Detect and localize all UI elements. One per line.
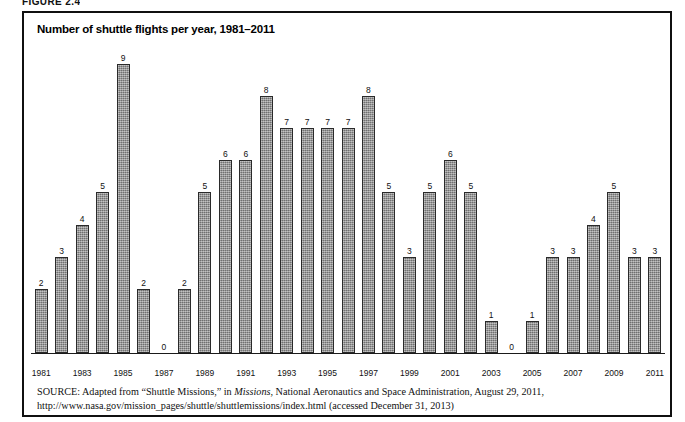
bar-slot[interactable]: 1 [481, 52, 501, 353]
x-tick-blank [624, 366, 644, 382]
bar[interactable] [117, 64, 130, 353]
x-tick-blank [338, 366, 358, 382]
bar-value-label: 7 [325, 117, 330, 127]
bar-value-label: 8 [366, 85, 371, 95]
bar-slot[interactable]: 1 [522, 52, 542, 353]
bar-slot[interactable]: 8 [358, 52, 378, 353]
x-tick-label: 2003 [481, 366, 501, 382]
bar-value-label: 2 [182, 278, 187, 288]
bar-slot[interactable]: 7 [297, 52, 317, 353]
bar[interactable] [382, 192, 395, 353]
bar[interactable] [198, 192, 211, 353]
bar-slot[interactable]: 5 [92, 52, 112, 353]
bar-slot[interactable]: 3 [624, 52, 644, 353]
x-tick-label: 1997 [358, 366, 378, 382]
bar-slot[interactable]: 6 [236, 52, 256, 353]
bar-slot[interactable]: 2 [31, 52, 51, 353]
bar[interactable] [403, 257, 416, 353]
bar-slot[interactable]: 3 [542, 52, 562, 353]
bar[interactable] [321, 128, 334, 353]
bar-slot[interactable]: 6 [440, 52, 460, 353]
bar[interactable] [178, 289, 191, 353]
bar[interactable] [444, 160, 457, 353]
bar-slot[interactable]: 3 [51, 52, 71, 353]
bar[interactable] [567, 257, 580, 353]
x-tick-label: 2001 [440, 366, 460, 382]
bar-slot[interactable]: 9 [113, 52, 133, 353]
bar-slot[interactable]: 4 [583, 52, 603, 353]
bar[interactable] [35, 289, 48, 353]
x-tick-label: 1991 [236, 366, 256, 382]
x-tick-blank [297, 366, 317, 382]
bar-value-label: 3 [632, 246, 637, 256]
figure-number-label: FIGURE 2.4 [22, 0, 80, 7]
bar-slot[interactable]: 5 [379, 52, 399, 353]
x-tick-blank [51, 366, 71, 382]
bar-slot[interactable]: 3 [399, 52, 419, 353]
bar-slot[interactable]: 0 [154, 52, 174, 353]
x-tick-label: 1983 [72, 366, 92, 382]
bar-value-label: 5 [387, 181, 392, 191]
x-tick-blank [133, 366, 153, 382]
bar-slot[interactable]: 7 [338, 52, 358, 353]
bar-value-label: 5 [612, 181, 617, 191]
bar[interactable] [280, 128, 293, 353]
bar[interactable] [607, 192, 620, 353]
bar[interactable] [301, 128, 314, 353]
bar[interactable] [342, 128, 355, 353]
x-tick-label: 2007 [563, 366, 583, 382]
bar[interactable] [96, 192, 109, 353]
bar-value-label: 3 [550, 246, 555, 256]
bar-slot[interactable]: 8 [256, 52, 276, 353]
figure-frame: Number of shuttle flights per year, 1981… [22, 11, 672, 417]
bar-slot[interactable]: 7 [317, 52, 337, 353]
x-tick-label: 2009 [604, 366, 624, 382]
x-tick-blank [92, 366, 112, 382]
bar-value-label: 3 [59, 246, 64, 256]
x-tick-label: 1987 [154, 366, 174, 382]
bar[interactable] [423, 192, 436, 353]
bar-slot[interactable]: 4 [72, 52, 92, 353]
x-tick-blank [256, 366, 276, 382]
source-label: SOURCE: [37, 386, 80, 397]
bar[interactable] [137, 289, 150, 353]
bar[interactable] [219, 160, 232, 353]
bar-slot[interactable]: 3 [563, 52, 583, 353]
bar[interactable] [587, 225, 600, 353]
bar-slot[interactable]: 3 [645, 52, 665, 353]
x-tick-blank [583, 366, 603, 382]
bar-value-label: 5 [202, 181, 207, 191]
bar[interactable] [55, 257, 68, 353]
bar-slot[interactable]: 2 [133, 52, 153, 353]
bar-value-label: 1 [489, 310, 494, 320]
bar-value-label: 2 [141, 278, 146, 288]
bar[interactable] [362, 96, 375, 353]
bar-slot[interactable]: 2 [174, 52, 194, 353]
bar[interactable] [485, 321, 498, 353]
bar-slot[interactable]: 5 [461, 52, 481, 353]
x-tick-blank [461, 366, 481, 382]
bar[interactable] [526, 321, 539, 353]
bar-slot[interactable]: 5 [420, 52, 440, 353]
bar-slot[interactable]: 0 [501, 52, 521, 353]
bar[interactable] [546, 257, 559, 353]
bar-value-label: 3 [571, 246, 576, 256]
bar-value-label: 7 [346, 117, 351, 127]
bar-slot[interactable]: 7 [276, 52, 296, 353]
bar[interactable] [628, 257, 641, 353]
x-tick-label: 1985 [113, 366, 133, 382]
bar-slot[interactable]: 5 [604, 52, 624, 353]
bar-slot[interactable]: 6 [215, 52, 235, 353]
bar[interactable] [76, 225, 89, 353]
bar-slot[interactable]: 5 [195, 52, 215, 353]
x-tick-label: 1989 [195, 366, 215, 382]
bar[interactable] [260, 96, 273, 353]
bar-value-label: 5 [427, 181, 432, 191]
bar[interactable] [464, 192, 477, 353]
bar[interactable] [648, 257, 661, 353]
bar-value-label: 7 [305, 117, 310, 127]
x-tick-label: 2005 [522, 366, 542, 382]
bar[interactable] [239, 160, 252, 353]
x-tick-blank [420, 366, 440, 382]
x-tick-blank [215, 366, 235, 382]
